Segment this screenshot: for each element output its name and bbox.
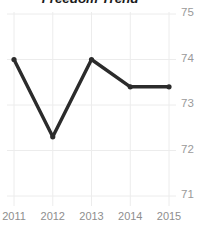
- y-tick-label-73: 73: [181, 97, 194, 109]
- x-tick-label-2015: 2015: [157, 210, 181, 222]
- x-tick-label-2014: 2014: [118, 210, 142, 222]
- x-tick-label-2013: 2013: [79, 210, 103, 222]
- x-tick-label-2012: 2012: [41, 210, 65, 222]
- x-tick-label-2011: 2011: [2, 210, 26, 222]
- line-chart-plot: [0, 0, 204, 231]
- y-tick-label-71: 71: [181, 188, 194, 200]
- y-tick-label-75: 75: [181, 6, 194, 18]
- y-tick-label-72: 72: [181, 143, 194, 155]
- data-point-2011: [11, 57, 16, 62]
- y-tick-label-74: 74: [181, 52, 194, 64]
- chart-container: Freedom Trend 7172737475 201120122013201…: [0, 0, 204, 231]
- data-point-2015: [166, 84, 171, 89]
- data-point-2013: [89, 57, 94, 62]
- data-point-2014: [128, 84, 133, 89]
- data-point-2012: [50, 134, 55, 139]
